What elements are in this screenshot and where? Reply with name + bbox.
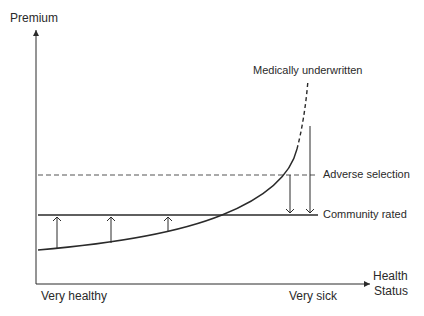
x-axis-label-line2: Status — [374, 285, 408, 298]
x-axis-label-line1: Health — [373, 270, 408, 283]
medically-underwritten-label: Medically underwritten — [253, 64, 362, 77]
diagram-canvas — [0, 0, 424, 316]
medically-underwritten-curve — [38, 149, 297, 250]
very-healthy-label: Very healthy — [41, 290, 107, 303]
adverse-selection-label: Adverse selection — [323, 168, 410, 181]
y-axis-label: Premium — [10, 12, 58, 25]
very-sick-label: Very sick — [289, 290, 337, 303]
community-rated-label: Community rated — [323, 208, 407, 221]
medically-underwritten-curve-dashed — [297, 80, 308, 149]
